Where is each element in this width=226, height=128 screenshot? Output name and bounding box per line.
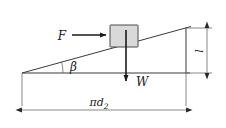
sliding-block bbox=[110, 25, 138, 47]
lead-angle-arc bbox=[62, 62, 64, 74]
height-dimension-label: l bbox=[193, 49, 206, 53]
height-dimension-label-group: l bbox=[193, 49, 206, 53]
figure-container: F W β πd2 l bbox=[0, 0, 226, 128]
force-label: F bbox=[57, 29, 67, 43]
lead-angle-label: β bbox=[69, 60, 77, 74]
weight-label: W bbox=[136, 75, 150, 89]
base-dimension-label-main: πd bbox=[88, 96, 103, 109]
inclined-plane-diagram: F W β πd2 l bbox=[0, 0, 226, 128]
base-dimension-label-subscript: 2 bbox=[103, 102, 109, 111]
inclined-plane-hypotenuse bbox=[22, 27, 191, 74]
base-dimension-label: πd2 bbox=[88, 96, 108, 111]
base-dimension-label-group: πd2 bbox=[88, 96, 108, 111]
